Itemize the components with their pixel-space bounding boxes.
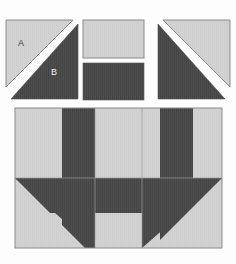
quilt-diagram-canvas: A B <box>0 0 236 264</box>
assembled-block-group <box>15 108 222 248</box>
label-b: B <box>51 67 57 77</box>
label-a: A <box>18 38 24 48</box>
rect-unit-dark <box>83 63 144 100</box>
vertical-bar-left <box>62 108 95 178</box>
quilt-block-diagram: A B <box>0 0 236 264</box>
bottom-center-light-notch <box>95 213 142 248</box>
rect-unit-light <box>83 20 144 58</box>
vertical-bar-right <box>160 108 193 178</box>
